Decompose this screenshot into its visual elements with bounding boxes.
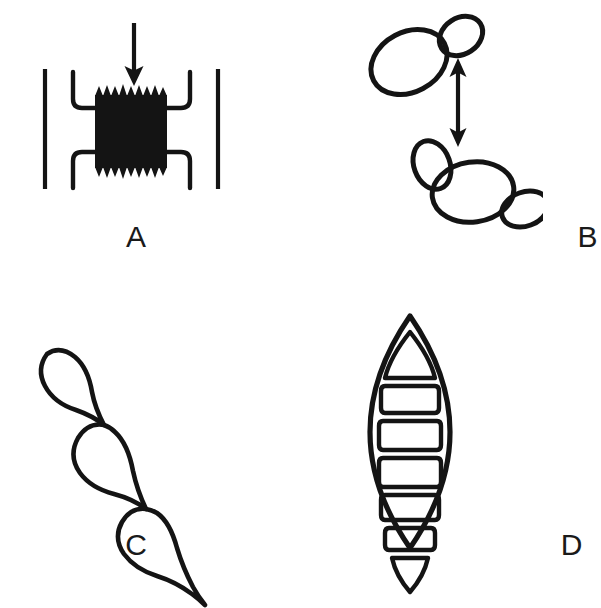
panel-b: B bbox=[272, 0, 543, 304]
panel-a-artwork bbox=[0, 0, 272, 304]
compartment-2 bbox=[381, 386, 439, 413]
cell-1 bbox=[41, 350, 104, 425]
pseudohyphal-chain bbox=[41, 350, 205, 605]
upper-bud bbox=[432, 8, 490, 63]
compartment-1 bbox=[385, 332, 435, 378]
left-bracket bbox=[73, 72, 96, 188]
compartment-7 bbox=[392, 558, 428, 592]
dark-body bbox=[95, 84, 167, 179]
panel-a: A bbox=[0, 0, 272, 304]
panel-c: C bbox=[0, 304, 272, 608]
double-headed-arrow-icon bbox=[450, 58, 467, 147]
cell-2 bbox=[73, 425, 146, 509]
panel-d-artwork bbox=[272, 304, 543, 608]
panel-b-artwork bbox=[272, 0, 543, 304]
right-bracket bbox=[167, 72, 190, 188]
compartment-4 bbox=[379, 458, 441, 487]
panel-d: D bbox=[272, 304, 543, 608]
down-arrow-icon bbox=[125, 23, 144, 86]
panel-b-label: B bbox=[272, 222, 601, 252]
panel-d-label: D bbox=[272, 530, 601, 560]
compartment-3 bbox=[379, 421, 441, 450]
panel-c-artwork bbox=[0, 304, 272, 608]
